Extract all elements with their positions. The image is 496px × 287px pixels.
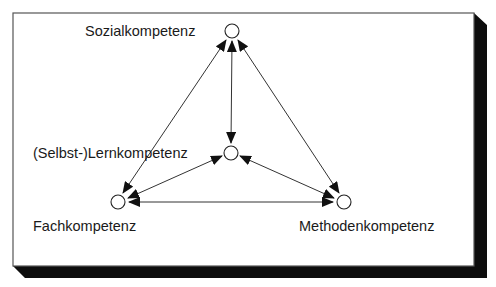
- competence-diagram: Sozialkompetenz (Selbst-)Lernkompetenz F…: [0, 0, 496, 287]
- node-methodenkompetenz: [337, 195, 351, 209]
- node-fachkompetenz: [111, 195, 125, 209]
- node-sozialkompetenz: [225, 24, 239, 38]
- label-lernkompetenz: (Selbst-)Lernkompetenz: [33, 145, 188, 161]
- label-fachkompetenz: Fachkompetenz: [33, 218, 136, 234]
- node-lernkompetenz: [224, 146, 238, 160]
- label-methodenkompetenz: Methodenkompetenz: [299, 218, 434, 234]
- label-sozialkompetenz: Sozialkompetenz: [85, 23, 195, 39]
